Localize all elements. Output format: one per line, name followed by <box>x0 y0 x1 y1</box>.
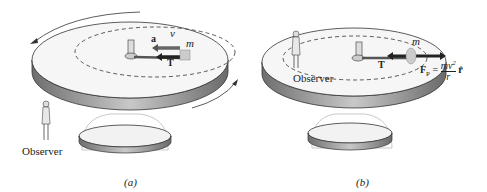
mass-label-a: m <box>186 38 194 49</box>
numerator: mv <box>441 60 453 71</box>
exponent: 2 <box>452 59 456 67</box>
tension-vector-label-a: T <box>167 58 174 68</box>
observer-figure-a <box>42 101 50 140</box>
caption-b: (b) <box>356 177 369 188</box>
unit-vector-r: r̂ <box>458 64 462 75</box>
pseudo-force-subscript: P <box>426 70 430 78</box>
velocity-label: v <box>170 28 175 39</box>
mass-label-b: m <box>412 36 420 47</box>
pseudo-force-equation: FP = mv2 r r̂ <box>420 60 463 82</box>
figure-canvas <box>0 0 487 192</box>
observer-label-b: Observer <box>293 73 333 84</box>
observer-label-a: Observer <box>22 146 62 157</box>
equals-sign: = <box>433 64 439 75</box>
caption-a: (a) <box>124 177 137 188</box>
denominator: r <box>441 72 456 82</box>
acceleration-vector-label: a <box>151 34 156 44</box>
panel-a-turntable <box>30 12 238 153</box>
tension-vector-label-b: T <box>378 60 385 70</box>
